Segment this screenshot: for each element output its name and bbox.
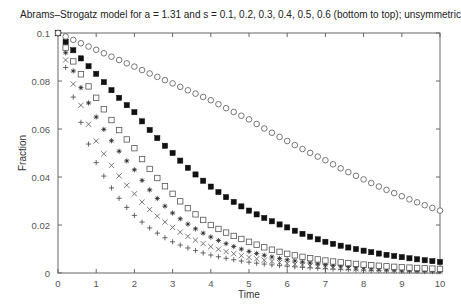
y-tick-label: 0.06	[32, 124, 51, 135]
y-tick-label: 0.04	[32, 172, 51, 183]
x-tick-label: 2	[132, 278, 137, 289]
series-cross	[55, 30, 442, 274]
x-axis-label: Time	[238, 289, 260, 300]
x-tick-label: 3	[170, 278, 175, 289]
x-tick-label: 7	[323, 278, 328, 289]
y-tick-label: 0.1	[37, 28, 50, 39]
x-tick-label: 8	[361, 278, 366, 289]
x-tick-label: 0	[55, 278, 60, 289]
plot-frame	[58, 33, 440, 273]
y-tick-label: 0.02	[32, 220, 51, 231]
series-filled-square	[55, 30, 442, 264]
x-tick-label: 5	[246, 278, 251, 289]
x-tick-label: 1	[94, 278, 99, 289]
x-tick-label: 10	[435, 278, 446, 289]
axis-ticks: 01234567891000.020.040.060.080.1	[32, 28, 446, 290]
y-tick-label: 0	[45, 268, 50, 279]
chart-canvas: 01234567891000.020.040.060.080.1 Time Fr…	[0, 0, 461, 307]
y-tick-label: 0.08	[32, 76, 51, 87]
x-tick-label: 4	[208, 278, 213, 289]
series-star	[55, 30, 442, 273]
y-axis-label: Fraction	[17, 135, 28, 171]
x-tick-label: 9	[399, 278, 404, 289]
data-series	[55, 30, 443, 274]
x-tick-label: 6	[285, 278, 290, 289]
series-plus	[55, 30, 442, 274]
series-open-square	[55, 30, 442, 271]
